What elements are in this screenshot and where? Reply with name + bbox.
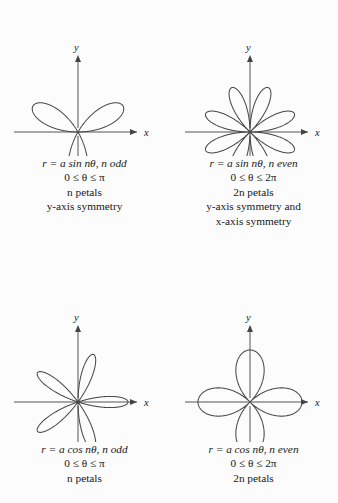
caption-eq-pre: r = a cos n — [41, 443, 91, 455]
caption-line-5: x-axis symmetry — [169, 214, 338, 228]
plot-top-right: x y — [169, 6, 338, 156]
caption-line-1: r = a sin nθ, n odd — [0, 156, 169, 170]
caption-line-1: r = a cos nθ, n even — [169, 442, 338, 456]
caption-line-3: 2n petals — [169, 471, 338, 485]
y-axis-label-tr: y — [245, 42, 251, 53]
caption-eq-post: , n odd — [96, 157, 127, 169]
caption-line-2: 0 ≤ θ ≤ π — [0, 170, 169, 184]
caption-line-3: 2n petals — [169, 185, 338, 199]
x-axis-label-br: x — [314, 397, 320, 408]
polar-plot-svg-br: x y — [169, 292, 338, 442]
caption-line-3: n petals — [0, 471, 169, 485]
rose-curve-bl — [37, 354, 128, 442]
caption-eq-post: , n even — [263, 157, 298, 169]
caption-eq-post: , n even — [264, 443, 299, 455]
panel-bottom-left: x y r = a cos nθ, n odd 0 ≤ θ ≤ π n peta… — [0, 292, 169, 485]
caption-eq-pre: r = a sin n — [42, 157, 90, 169]
plot-bottom-right: x y — [169, 292, 338, 442]
x-axis-label-tl: x — [143, 127, 149, 138]
caption-top-right: r = a sin nθ, n even 0 ≤ θ ≤ 2π 2n petal… — [169, 156, 338, 228]
caption-line-2: 0 ≤ θ ≤ π — [0, 456, 169, 470]
caption-bottom-right: r = a cos nθ, n even 0 ≤ θ ≤ 2π 2n petal… — [169, 442, 338, 485]
caption-top-left: r = a sin nθ, n odd 0 ≤ θ ≤ π n petals y… — [0, 156, 169, 214]
polar-plot-svg-bl: x y — [0, 292, 169, 442]
caption-line-1: r = a sin nθ, n even — [169, 156, 338, 170]
panel-bottom-right: x y r = a cos nθ, n even 0 ≤ θ ≤ 2π 2n p… — [169, 292, 338, 485]
axes-bl — [14, 325, 137, 442]
polar-plot-svg-tl: x y — [0, 6, 169, 156]
caption-eq-pre: r = a cos n — [208, 443, 258, 455]
plot-top-left: x y — [0, 6, 169, 156]
caption-bottom-left: r = a cos nθ, n odd 0 ≤ θ ≤ π n petals — [0, 442, 169, 485]
axes-br — [185, 325, 308, 442]
x-axis-label-bl: x — [143, 397, 149, 408]
y-axis-label-tl: y — [73, 42, 79, 53]
y-axis-label-br: y — [245, 312, 251, 323]
caption-eq-pre: r = a sin n — [209, 157, 257, 169]
polar-plot-svg-tr: x y — [169, 6, 338, 156]
caption-eq-post: , n odd — [97, 443, 128, 455]
axes-tl — [14, 55, 137, 156]
y-axis-label-bl: y — [73, 312, 79, 323]
caption-line-2: 0 ≤ θ ≤ 2π — [169, 456, 338, 470]
rose-curves-figure: x y r = a sin nθ, n odd 0 ≤ θ ≤ π n peta… — [0, 0, 338, 503]
plot-bottom-left: x y — [0, 292, 169, 442]
caption-line-3: n petals — [0, 185, 169, 199]
panel-top-left: x y r = a sin nθ, n odd 0 ≤ θ ≤ π n peta… — [0, 6, 169, 214]
caption-line-4: y-axis symmetry — [0, 199, 169, 213]
x-axis-label-tr: x — [314, 127, 320, 138]
caption-line-4: y-axis symmetry and — [169, 199, 338, 213]
caption-line-2: 0 ≤ θ ≤ 2π — [169, 170, 338, 184]
caption-line-1: r = a cos nθ, n odd — [0, 442, 169, 456]
panel-top-right: x y r = a sin nθ, n even 0 ≤ θ ≤ 2π 2n p… — [169, 6, 338, 228]
